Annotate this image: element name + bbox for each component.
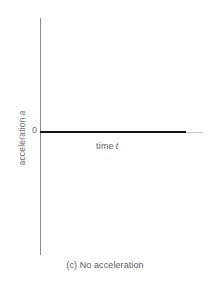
x-axis-title-symbol: t	[116, 141, 119, 151]
y-axis-line	[40, 18, 41, 255]
figure-caption: (c) No acceleration	[0, 259, 210, 271]
zero-acceleration-data-line	[40, 131, 186, 133]
y-axis-title-text: acceleration	[17, 117, 27, 165]
x-axis-title-text: time	[96, 141, 114, 151]
acceleration-vs-time-figure: 0 acceleration a time t (c) No accelerat…	[0, 0, 210, 296]
y-axis-title: acceleration a	[16, 132, 28, 144]
x-axis-title: time t	[96, 141, 119, 152]
y-axis-title-symbol: a	[17, 110, 27, 115]
